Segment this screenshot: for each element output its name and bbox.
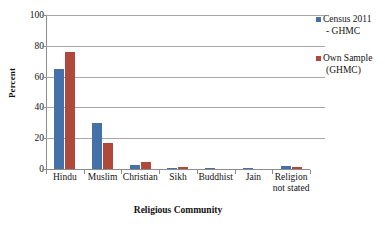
bar [292,167,302,169]
legend-swatch-icon [316,17,321,22]
bar [243,168,253,169]
gridline-extension [310,77,325,78]
bar [178,167,188,169]
y-axis-tick-label: 60 [18,73,44,83]
bar-group [159,15,197,169]
legend-label: Census 2011- GHMC [323,14,385,37]
legend-entry[interactable]: Census 2011- GHMC [316,14,385,37]
y-axis-tick-label: 20 [18,134,44,144]
bar [103,143,113,169]
x-axis-category-label: Religionnot stated [266,172,316,194]
bar-group [121,15,159,169]
y-axis-tick-label: 40 [18,103,44,113]
gridline-extension [310,138,325,139]
bar-group [46,15,84,169]
bar-group [84,15,122,169]
gridline-extension [310,15,325,16]
bar [205,168,215,169]
y-axis-tick-label: 100 [18,11,44,21]
legend-label: Own Sample(GHMC) [323,53,385,76]
chart-legend: Census 2011- GHMCOwn Sample(GHMC) [316,14,385,92]
y-axis-tick-label: 80 [18,42,44,52]
gridline-extension [310,107,325,108]
x-axis-title: Religious Community [46,205,310,215]
x-axis-line [46,169,310,170]
bar [92,123,102,169]
gridline-extension [310,46,325,47]
bar [281,166,291,169]
bar-group [197,15,235,169]
legend-swatch-icon [316,56,321,61]
bar-group [272,15,310,169]
bar [141,162,151,169]
bar [54,69,64,169]
bar-chart: Percent 020406080100 HinduMuslimChristia… [0,0,385,231]
y-axis-tick-labels: 020406080100 [18,0,44,231]
bar [65,52,75,169]
plot-area [46,15,310,170]
y-axis-title: Percent [7,53,17,113]
legend-entry[interactable]: Own Sample(GHMC) [316,53,385,76]
bar-group [235,15,273,169]
bar [167,168,177,169]
bar [130,165,140,169]
